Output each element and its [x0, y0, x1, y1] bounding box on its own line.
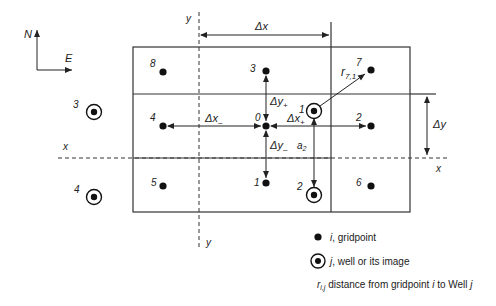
- north-label: N: [24, 28, 32, 40]
- gridpoint-6-icon: [367, 182, 374, 189]
- y-axis-label-bottom: y: [205, 237, 212, 248]
- gridpoint-4-icon: [159, 122, 166, 129]
- dy-minus-label: Δy–: [269, 139, 288, 154]
- dx-minus-label: Δx–: [204, 112, 223, 127]
- gridpoint-1-label: 1: [254, 177, 260, 188]
- x-axis-label-left: x: [62, 141, 69, 152]
- well-2-icon: [307, 188, 322, 203]
- gridpoint-7-label: 7: [356, 57, 362, 68]
- legend-distance-text: ri,j distance from gridpoint i to Well j: [317, 279, 473, 292]
- gridpoint-4-label: 4: [150, 112, 156, 123]
- dy-plus-label: Δy+: [269, 95, 288, 110]
- a2-label: a2: [297, 140, 307, 152]
- r71-label: r7,1: [341, 65, 356, 81]
- legend-gridpoint-icon: [314, 233, 321, 240]
- gridpoint-8-icon: [159, 68, 166, 75]
- well-2-label: 2: [296, 181, 303, 192]
- gridpoint-2-icon: [367, 122, 374, 129]
- legend-gridpoint-text: i, gridpoint: [330, 232, 376, 243]
- gridpoint-3-icon: [262, 67, 269, 74]
- gridpoint-7-icon: [367, 66, 374, 73]
- well-1-icon: [307, 104, 322, 119]
- gridpoint-1-icon: [262, 179, 269, 186]
- well-4-icon: [87, 190, 102, 205]
- dy-label: Δy: [432, 118, 447, 130]
- axes: [58, 12, 450, 250]
- compass: N E: [24, 28, 73, 70]
- well-3-icon: [87, 105, 102, 120]
- dx-label: Δx: [254, 20, 268, 32]
- legend-well-text: j, well or its image: [328, 256, 410, 267]
- east-label: E: [65, 52, 73, 64]
- gridpoint-5-label: 5: [151, 177, 157, 188]
- gridpoint-6-label: 6: [356, 177, 362, 188]
- gridpoint-0-icon: [262, 122, 269, 129]
- legend: i, gridpoint j, well or its image ri,j d…: [311, 232, 473, 292]
- legend-well-icon: [311, 254, 325, 268]
- well-3-label: 3: [73, 99, 79, 110]
- well-4-label: 4: [74, 184, 80, 195]
- y-axis-label-top: y: [185, 13, 192, 24]
- gridpoint-2-label: 2: [355, 112, 362, 123]
- gridpoint-3-label: 3: [250, 63, 256, 74]
- gridpoint-0-label: 0: [255, 112, 261, 123]
- gridpoint-5-icon: [159, 182, 166, 189]
- diagram-canvas: N E x x y y Δx Δy Δx– Δx+ Δy+ Δy– a2 r7,…: [0, 0, 496, 306]
- gridpoint-8-label: 8: [150, 58, 156, 69]
- x-axis-label-right: x: [435, 163, 442, 174]
- grid: [133, 22, 436, 212]
- well-1-label: 1: [299, 104, 305, 115]
